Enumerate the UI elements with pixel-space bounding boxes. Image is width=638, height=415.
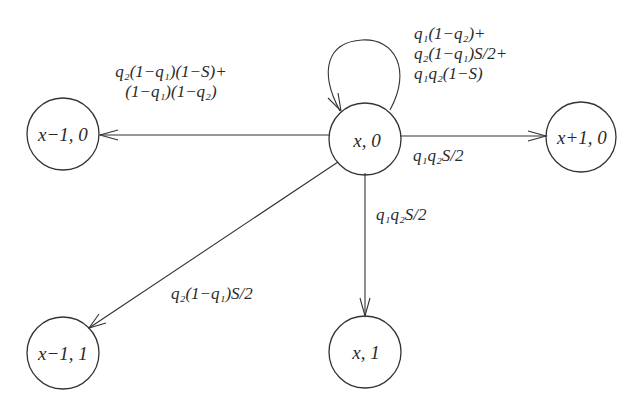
edge-label-to-x-minus-1-0-line-1: q₂(1−q₁)(1−S)+ — [86, 62, 256, 82]
edge-label-to-x-minus-1-1: q₂(1−q₁)S/2 — [171, 284, 253, 304]
edge-label-self-loop-line-1: q₁(1−q₂)+ — [414, 24, 507, 44]
edge-label-self-loop-line-3: q₁q₂(1−S) — [414, 64, 507, 84]
node-label-x-minus-1-1: x−1, 1 — [38, 343, 88, 365]
edge-label-self-loop-line-2: q₂(1−q₁)S/2+ — [414, 44, 507, 64]
node-label-x-minus-1-0: x−1, 0 — [38, 124, 88, 146]
edge-label-to-x-1: q₁q₂S/2 — [376, 205, 427, 225]
edge-label-to-x-minus-1-0-line-2: (1−q₁)(1−q₂) — [86, 82, 256, 102]
edge-label-self-loop: q₁(1−q₂)+ q₂(1−q₁)S/2+ q₁q₂(1−S) — [414, 24, 507, 84]
arrowhead-self-loop — [328, 93, 341, 111]
node-label-x-plus-1-0: x+1, 0 — [557, 127, 607, 149]
node-label-x-0: x, 0 — [353, 130, 380, 152]
edge-label-to-x-1-line-1: q₁q₂S/2 — [376, 205, 427, 225]
edge-label-to-x-minus-1-1-line-1: q₂(1−q₁)S/2 — [171, 284, 253, 304]
edge-label-to-x-plus-1-0: q₁q₂S/2 — [413, 146, 464, 166]
edge-label-to-x-minus-1-0: q₂(1−q₁)(1−S)+ (1−q₁)(1−q₂) — [86, 62, 256, 102]
edge-label-to-x-plus-1-0-line-1: q₁q₂S/2 — [413, 146, 464, 166]
node-label-x-1: x, 1 — [352, 342, 379, 364]
